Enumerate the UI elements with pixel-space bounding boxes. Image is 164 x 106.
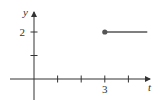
y-tick-label: 2 xyxy=(20,26,26,38)
closed-endpoint-marker xyxy=(102,29,107,34)
x-tick-label: 3 xyxy=(102,83,108,95)
series xyxy=(102,29,147,34)
step-function-chart: 3 2 t y xyxy=(0,0,164,106)
y-ticks: 2 xyxy=(20,26,38,56)
x-axis-label: t xyxy=(148,81,152,93)
x-ticks: 3 xyxy=(58,76,129,96)
y-axis-label: y xyxy=(22,6,28,18)
